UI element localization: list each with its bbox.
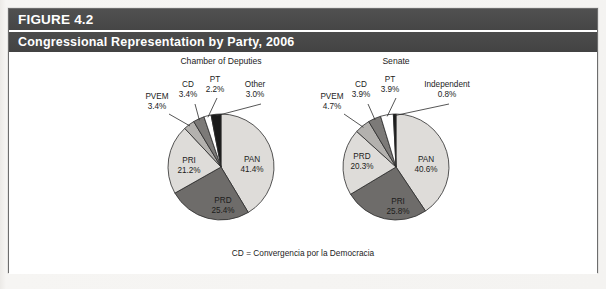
label-deputies-pri-name: PRI xyxy=(177,156,200,166)
label-deputies-prd-name: PRD xyxy=(211,196,234,206)
label-senate-pan: PAN 40.6% xyxy=(414,155,437,174)
label-deputies-pan-name: PAN xyxy=(240,155,263,165)
label-deputies-cd-value: 3.4% xyxy=(179,90,198,100)
label-deputies-pt-name: PT xyxy=(206,75,225,85)
leader-line-pvem xyxy=(344,114,363,127)
label-senate-pvem: PVEM 4.7% xyxy=(320,92,343,111)
leader-line-cd xyxy=(368,104,375,120)
label-senate-prd-name: PRD xyxy=(350,152,373,162)
label-deputies-prd: PRD 25.4% xyxy=(211,196,234,215)
label-senate-cd-name: CD xyxy=(352,80,371,90)
document-page: FIGURE 4.2 Congressional Representation … xyxy=(0,0,606,289)
label-deputies-cd: CD 3.4% xyxy=(179,80,198,99)
label-senate-pvem-name: PVEM xyxy=(320,92,343,102)
label-senate-pan-name: PAN xyxy=(414,155,437,165)
figure-number-bar: FIGURE 4.2 xyxy=(9,9,597,30)
label-senate-prd: PRD 20.3% xyxy=(350,152,373,171)
label-deputies-pt: PT 2.2% xyxy=(206,75,225,94)
label-deputies-pan: PAN 41.4% xyxy=(240,155,263,174)
label-deputies-pvem-name: PVEM xyxy=(145,92,168,102)
figure-number-label: FIGURE 4.2 xyxy=(18,12,94,27)
label-deputies-other-value: 3.0% xyxy=(245,90,265,100)
leader-line-independent xyxy=(395,104,449,116)
pie-charts-svg xyxy=(9,52,599,252)
figure-title-bar: Congressional Representation by Party, 2… xyxy=(9,32,597,52)
label-deputies-pvem-value: 3.4% xyxy=(145,102,168,112)
figure-plot-area: Chamber of Deputies Senate PVEM 3.4% CD … xyxy=(9,52,597,274)
label-deputies-cd-name: CD xyxy=(179,80,198,90)
label-deputies-pri-value: 21.2% xyxy=(177,166,200,176)
label-deputies-other: Other 3.0% xyxy=(245,80,265,99)
label-senate-cd: CD 3.9% xyxy=(352,80,371,99)
leader-line-pvem xyxy=(169,114,190,126)
label-senate-pan-value: 40.6% xyxy=(414,165,437,175)
label-senate-pt-name: PT xyxy=(381,75,400,85)
label-senate-pri: PRI 25.8% xyxy=(386,197,409,216)
figure-footnote: CD = Convergencia por la Democracia xyxy=(9,248,597,258)
label-senate-pri-value: 25.8% xyxy=(386,207,409,217)
label-deputies-other-name: Other xyxy=(245,80,265,90)
label-senate-pt-value: 3.9% xyxy=(381,85,400,95)
label-senate-prd-value: 20.3% xyxy=(350,162,373,172)
label-senate-independent-value: 0.8% xyxy=(424,90,470,100)
leader-line-other xyxy=(216,104,261,116)
label-deputies-prd-value: 25.4% xyxy=(211,206,234,216)
label-senate-independent: Independent 0.8% xyxy=(424,80,470,99)
label-deputies-pvem: PVEM 3.4% xyxy=(145,92,168,111)
figure-title-label: Congressional Representation by Party, 2… xyxy=(18,35,295,49)
label-senate-pt: PT 3.9% xyxy=(381,75,400,94)
label-deputies-pt-value: 2.2% xyxy=(206,85,225,95)
label-deputies-pri: PRI 21.2% xyxy=(177,156,200,175)
label-deputies-pan-value: 41.4% xyxy=(240,165,263,175)
label-senate-pri-name: PRI xyxy=(386,197,409,207)
label-senate-pvem-value: 4.7% xyxy=(320,102,343,112)
label-senate-independent-name: Independent xyxy=(424,80,470,90)
figure-container: FIGURE 4.2 Congressional Representation … xyxy=(8,8,598,273)
label-senate-cd-value: 3.9% xyxy=(352,90,371,100)
leader-line-cd xyxy=(195,104,199,120)
